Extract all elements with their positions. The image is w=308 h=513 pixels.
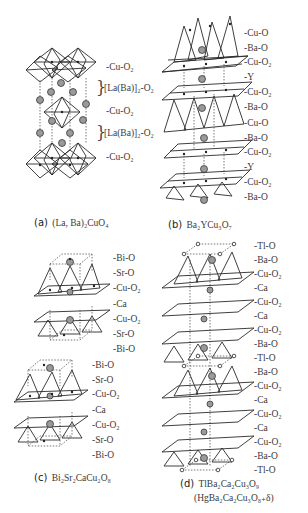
- layer-label: -Cu-O₂: [106, 152, 134, 163]
- sr-ca-atoms: [47, 259, 74, 428]
- panel-a-la-ba-cuo4: -Cu-O₂ } [La(Ba)]₂-O₂ -Cu-O₂ } [La(Ba)]₂…: [0, 0, 154, 240]
- caption-d-alt: (HgBa₂Ca₂Cu₃O₈₊δ): [194, 492, 274, 503]
- caption-tag: (d): [180, 478, 194, 489]
- layer-label: -Ba-O: [254, 451, 278, 462]
- layer-label: -Ba-O: [244, 192, 268, 203]
- layer-label: -Tl-O: [254, 353, 276, 364]
- layer-label: -Ca: [254, 423, 268, 434]
- layer-label: -Cu-O₂: [113, 314, 141, 325]
- layer-label: -Cu-O₂: [244, 87, 272, 98]
- layer-label: -Bi-O: [92, 360, 114, 371]
- layer-label: -Cu-O: [244, 118, 268, 129]
- layer-label: -Ba-O: [254, 339, 278, 350]
- layer-label: -Bi-O: [113, 253, 135, 264]
- octahedron-row-bottom: [26, 143, 96, 178]
- layer-label: -Cu-O₂: [254, 297, 282, 308]
- cuo2-pyramids-upper: [34, 264, 110, 336]
- layer-label: -Y: [244, 162, 254, 173]
- layer-label: -Cu-O₂: [254, 325, 282, 336]
- caption-tag: (a): [34, 217, 48, 228]
- layer-label: -Ba-O: [244, 133, 268, 144]
- caption-a: (a) (La, Ba)₂CuO₄: [34, 217, 109, 228]
- layer-label: -Bi-O: [92, 450, 114, 461]
- crystal-structure-d: [154, 240, 308, 513]
- caption-formula: Bi₂Sr₂CaCu₂O₈: [52, 473, 111, 483]
- layer-label: -Ca: [113, 299, 127, 310]
- layer-label: -Ba-O: [244, 102, 268, 113]
- layer-label: -Cu-O₂: [244, 147, 272, 158]
- layer-label: -Cu-O₂: [244, 57, 272, 68]
- layer-label: -Ca: [254, 311, 268, 322]
- caption-b: (b) Ba₂YCu₃O₇: [168, 219, 232, 230]
- caption-c: (c) Bi₂Sr₂CaCu₂O₈: [34, 472, 111, 483]
- layer-label: -Ca: [92, 405, 106, 416]
- layer-label: -Cu-O₂: [113, 283, 141, 294]
- layer-label: -Cu-O₂: [92, 420, 120, 431]
- layer-label: -Sr-O: [113, 268, 134, 279]
- layer-label: -Cu-O: [244, 28, 268, 39]
- layer-label: -Tl-O: [254, 465, 276, 476]
- cuo2-pyramids-lower: [14, 370, 88, 442]
- layer-label: -Cu-O₂: [106, 62, 134, 73]
- layer-label: -Ca: [254, 395, 268, 406]
- caption-formula-alt: (HgBa₂Ca₂Cu₃O₈₊δ): [194, 493, 274, 503]
- pyramids-block-2: [162, 366, 254, 466]
- layer-label: -Bi-O: [113, 344, 135, 355]
- cuo2-plane-bottom: [160, 170, 250, 200]
- layer-label: -Cu-O₂: [254, 437, 282, 448]
- layer-label: -Tl-O: [254, 241, 276, 252]
- layer-label: -Cu-O₂: [106, 106, 134, 117]
- panel-b-ba2ycu3o7: -Cu-O -Ba-O -Cu-O₂ -Y -Cu-O₂ -Ba-O -Cu-O…: [154, 0, 308, 240]
- ba-ca-atoms: [201, 257, 216, 462]
- panel-d-tlba2ca2cu3o9: -Tl-O -Ba-O -Cu-O₂ -Ca -Cu-O₂ -Ca -Cu-O₂…: [154, 240, 308, 513]
- layer-label: [La(Ba)]₂-O₂: [104, 128, 154, 139]
- layer-label: -Ba-O: [254, 255, 278, 266]
- layer-label: -Ca: [254, 283, 268, 294]
- layer-label: -Cu-O₂: [254, 381, 282, 392]
- layer-label: -Sr-O: [92, 435, 113, 446]
- crystal-structure-a: [0, 0, 154, 240]
- cuo2-plane-middle: [162, 82, 252, 158]
- layer-label: -Ba-O: [254, 367, 278, 378]
- caption-formula: TlBa₂Ca₂Cu₃O₉: [198, 479, 259, 489]
- caption-tag: (b): [168, 219, 182, 230]
- layer-label: [La(Ba)]₂-O₂: [104, 83, 154, 94]
- layer-label: -Cu-O₂: [92, 389, 120, 400]
- layer-label: -Ba-O: [244, 43, 268, 54]
- panel-c-bi2sr2cacu2o8: -Bi-O -Sr-O -Cu-O₂ -Ca -Cu-O₂ -Sr-O -Bi-…: [0, 240, 154, 513]
- caption-d: (d) TlBa₂Ca₂Cu₃O₉: [180, 478, 259, 489]
- layer-label: -Sr-O: [92, 375, 113, 386]
- pyramids-block-1: [162, 252, 254, 362]
- caption-formula: Ba₂YCu₃O₇: [187, 220, 232, 230]
- layer-label: -Y: [244, 72, 254, 83]
- crystal-structure-b: [154, 0, 308, 240]
- layer-label: -Cu-O₂: [254, 409, 282, 420]
- cu-atoms: [39, 61, 79, 166]
- caption-tag: (c): [34, 472, 47, 483]
- octahedron-row-top: [26, 48, 96, 82]
- layer-label: -Cu-O₂: [244, 177, 272, 188]
- layer-label: -Sr-O: [113, 329, 134, 340]
- caption-formula: (La, Ba)₂CuO₄: [52, 218, 108, 228]
- layer-label: -Cu-O₂: [254, 269, 282, 280]
